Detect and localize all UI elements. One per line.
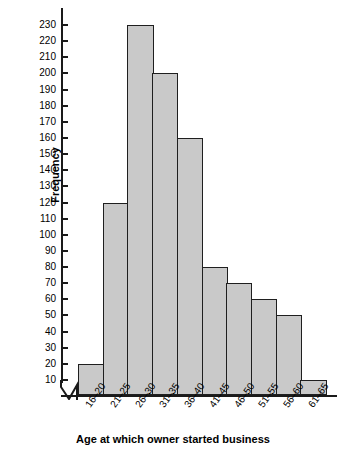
histogram-chart: Frequency 102030405060708090100110120130…	[0, 0, 346, 457]
bar-41–45	[202, 267, 228, 395]
bars-layer	[0, 8, 346, 396]
x-axis-title: Age at which owner started business	[0, 433, 346, 445]
bar-31–35	[152, 73, 178, 395]
bar-36–40	[177, 138, 203, 395]
bar-46–50	[226, 283, 252, 395]
bar-51–55	[251, 299, 277, 395]
axis-break-icon	[56, 380, 90, 400]
bar-26–30	[127, 25, 153, 395]
bar-21–25	[103, 203, 129, 396]
